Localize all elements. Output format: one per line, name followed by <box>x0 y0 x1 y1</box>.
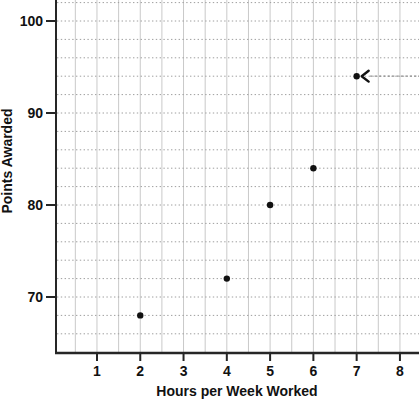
x-tick-label: 2 <box>136 363 144 379</box>
x-tick-label: 7 <box>353 363 361 379</box>
y-axis-ticks: 708090100 <box>20 13 56 305</box>
data-point <box>310 165 316 171</box>
data-point <box>267 202 273 208</box>
scatter-chart: 708090100 12345678 Hours per Week Worked… <box>0 0 419 404</box>
scatter-plot-figure: 708090100 12345678 Hours per Week Worked… <box>0 0 419 404</box>
annotation-arrow <box>362 71 419 82</box>
x-tick-label: 8 <box>396 363 404 379</box>
y-tick-label: 80 <box>27 197 43 213</box>
y-tick-label: 100 <box>20 13 44 29</box>
x-tick-label: 3 <box>180 363 188 379</box>
x-axis-ticks: 12345678 <box>93 354 404 379</box>
data-point <box>224 275 230 281</box>
x-tick-label: 4 <box>223 363 231 379</box>
y-tick-label: 90 <box>27 105 43 121</box>
x-tick-label: 1 <box>93 363 101 379</box>
x-tick-label: 6 <box>309 363 317 379</box>
data-point <box>137 312 143 318</box>
x-axis-label: Hours per Week Worked <box>156 383 317 399</box>
y-tick-label: 70 <box>27 289 43 305</box>
data-point <box>353 73 359 79</box>
grid-lines <box>57 0 419 352</box>
y-axis-label: Points Awarded <box>0 108 15 213</box>
x-tick-label: 5 <box>266 363 274 379</box>
